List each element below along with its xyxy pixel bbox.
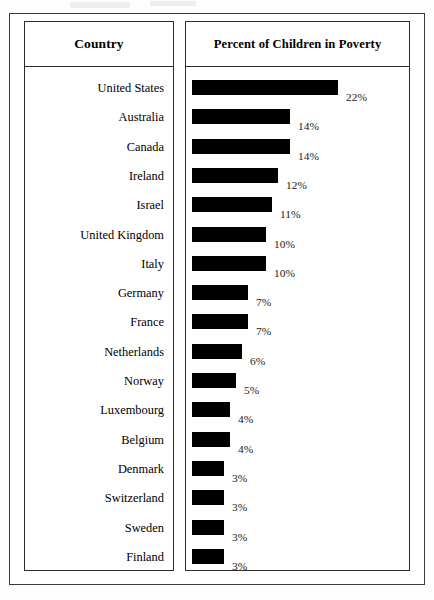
bar-value-label: 22% bbox=[346, 91, 367, 104]
figure-page: Country United StatesAustraliaCanadaIrel… bbox=[0, 0, 434, 600]
country-label: Norway bbox=[124, 373, 164, 389]
bar-value-label: 4% bbox=[238, 413, 253, 426]
bar-value-label: 10% bbox=[274, 267, 295, 280]
country-list: United StatesAustraliaCanadaIrelandIsrae… bbox=[25, 67, 173, 571]
bar-value-label: 4% bbox=[238, 443, 253, 456]
bar bbox=[192, 461, 224, 476]
bar-value-label: 7% bbox=[256, 296, 271, 309]
bar-chart: 22%14%14%12%11%10%10%7%7%6%5%4%4%3%3%3%3… bbox=[186, 67, 409, 571]
bar-value-label: 5% bbox=[244, 384, 259, 397]
bar-value-label: 3% bbox=[232, 472, 247, 485]
bar bbox=[192, 373, 236, 388]
bar bbox=[192, 168, 278, 183]
country-label: Israel bbox=[136, 197, 164, 213]
bar-row: 7% bbox=[192, 285, 402, 301]
bar-row: 3% bbox=[192, 520, 402, 536]
bar-row: 14% bbox=[192, 109, 402, 125]
bar bbox=[192, 432, 230, 447]
bar-row: 10% bbox=[192, 227, 402, 243]
bar-value-label: 3% bbox=[232, 560, 247, 573]
country-header: Country bbox=[25, 22, 173, 67]
bar bbox=[192, 285, 248, 300]
bar-row: 7% bbox=[192, 314, 402, 330]
bar-value-label: 7% bbox=[256, 325, 271, 338]
country-header-label: Country bbox=[74, 36, 123, 52]
bar-row: 3% bbox=[192, 549, 402, 565]
country-label: Denmark bbox=[118, 461, 164, 477]
bar bbox=[192, 80, 338, 95]
bar-value-label: 6% bbox=[250, 355, 265, 368]
bar-row: 10% bbox=[192, 256, 402, 272]
country-label: Belgium bbox=[121, 432, 164, 448]
bar-value-label: 11% bbox=[280, 208, 300, 221]
figure-outer-frame: Country United StatesAustraliaCanadaIrel… bbox=[9, 13, 425, 585]
country-label: United States bbox=[98, 80, 164, 96]
country-panel: Country United StatesAustraliaCanadaIrel… bbox=[24, 21, 174, 571]
bar bbox=[192, 256, 266, 271]
country-label: Germany bbox=[118, 285, 164, 301]
bar bbox=[192, 109, 290, 124]
bar bbox=[192, 402, 230, 417]
bar-row: 14% bbox=[192, 139, 402, 155]
country-label: Italy bbox=[141, 256, 164, 272]
country-label: Luxembourg bbox=[100, 402, 164, 418]
country-label: Netherlands bbox=[104, 344, 164, 360]
bar-value-label: 3% bbox=[232, 531, 247, 544]
country-label: France bbox=[130, 314, 164, 330]
bar-row: 6% bbox=[192, 344, 402, 360]
bar-value-label: 12% bbox=[286, 179, 307, 192]
bar-row: 4% bbox=[192, 402, 402, 418]
bar bbox=[192, 314, 248, 329]
chart-header-label: Percent of Children in Poverty bbox=[214, 37, 382, 52]
scan-artifact bbox=[150, 1, 196, 6]
bar bbox=[192, 490, 224, 505]
bar-value-label: 3% bbox=[232, 501, 247, 514]
bar bbox=[192, 344, 242, 359]
scan-artifact bbox=[70, 2, 130, 8]
bar-row: 5% bbox=[192, 373, 402, 389]
country-label: United Kingdom bbox=[80, 227, 164, 243]
bar-value-label: 10% bbox=[274, 238, 295, 251]
bar-value-label: 14% bbox=[298, 120, 319, 133]
country-label: Switzerland bbox=[105, 490, 164, 506]
bar-row: 3% bbox=[192, 490, 402, 506]
bar bbox=[192, 227, 266, 242]
bar-row: 12% bbox=[192, 168, 402, 184]
bar bbox=[192, 139, 290, 154]
bar-row: 11% bbox=[192, 197, 402, 213]
country-label: Sweden bbox=[125, 520, 164, 536]
bar bbox=[192, 520, 224, 535]
bar-row: 4% bbox=[192, 432, 402, 448]
bar-row: 3% bbox=[192, 461, 402, 477]
country-label: Canada bbox=[127, 139, 164, 155]
bar bbox=[192, 549, 224, 564]
bar-row: 22% bbox=[192, 80, 402, 96]
bar bbox=[192, 197, 272, 212]
chart-panel: Percent of Children in Poverty 22%14%14%… bbox=[185, 21, 410, 571]
country-label: Australia bbox=[119, 109, 164, 125]
bar-value-label: 14% bbox=[298, 150, 319, 163]
country-label: Ireland bbox=[129, 168, 164, 184]
country-label: Finland bbox=[126, 549, 164, 565]
chart-header: Percent of Children in Poverty bbox=[186, 22, 409, 67]
